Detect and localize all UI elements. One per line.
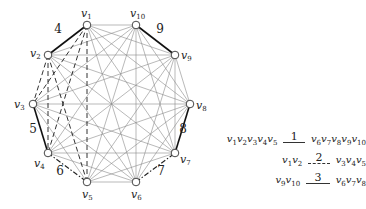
legend-row-3-connector: 3 — [306, 172, 329, 188]
edge-label-5: 5 — [29, 122, 37, 136]
edge-v1-v4 — [48, 25, 87, 153]
edge-v6-v9 — [136, 55, 175, 182]
vertex-label-v10: v10 — [130, 7, 145, 21]
legend-vertex: v5 — [267, 133, 277, 144]
vertex-label-v1: v1 — [81, 7, 92, 21]
edge-v2-v5 — [48, 55, 87, 182]
vertex-label-v6: v6 — [131, 188, 142, 202]
edge-v4-v5 — [48, 153, 87, 182]
legend-vertex: v6 — [336, 174, 346, 185]
legend-row-2-number: 2 — [308, 152, 329, 163]
vertex-v1 — [83, 21, 91, 29]
edge-label-9: 9 — [156, 22, 164, 36]
legend-vertex: v1 — [227, 133, 237, 144]
edge-v7-v10 — [136, 25, 175, 153]
legend-row-1: v1v2v3v4v5 1 v6v7v8v9v10 — [218, 131, 366, 147]
edge-label-8: 8 — [179, 122, 187, 136]
legend-vertex: v9 — [275, 174, 285, 185]
legend-row-2-connector: 2 — [308, 152, 329, 168]
vertex-v10 — [132, 21, 140, 29]
vertex-label-v2: v2 — [30, 47, 41, 61]
legend-row-3-left: v9v10 — [218, 174, 300, 188]
edge-v2-v6 — [48, 55, 136, 182]
vertex-v2 — [44, 51, 52, 59]
legend-vertex: v10 — [351, 133, 366, 144]
legend-vertex: v4 — [257, 133, 267, 144]
legend-vertex: v4 — [346, 154, 356, 165]
legend-vertex: v9 — [341, 133, 351, 144]
edge-v1-v8 — [87, 25, 190, 104]
edge-v5-v8 — [87, 104, 190, 182]
dashed-edges — [33, 25, 87, 182]
legend-row-3-number: 3 — [306, 172, 329, 183]
edge-v8-v10 — [136, 25, 190, 104]
edge-v6-v7 — [136, 153, 175, 182]
legend-row-1-number: 1 — [283, 131, 304, 142]
legend-row-2-left: v1v2 — [218, 154, 302, 168]
vertex-v9 — [171, 51, 179, 59]
vertex-v5 — [83, 178, 91, 186]
legend-vertex: v10 — [286, 174, 301, 185]
legend-vertex: v1 — [282, 154, 292, 165]
complete-graph-k10: v1v2v3v4v5v6v7v8v9v10 495867 — [0, 0, 230, 209]
edge-label-7: 7 — [157, 164, 165, 178]
vertex-label-v5: v5 — [82, 188, 93, 202]
legend-row-1-right: v6v7v8v9v10 — [311, 133, 366, 147]
legend-vertex: v8 — [331, 133, 341, 144]
legend-vertex: v6 — [311, 133, 321, 144]
vertex-v7 — [171, 149, 179, 157]
edge-v2-v3 — [33, 55, 48, 104]
edge-label-6: 6 — [56, 164, 64, 178]
legend-vertex: v2 — [292, 154, 302, 165]
vertex-label-v8: v8 — [196, 99, 207, 113]
edge-v3-v9 — [33, 55, 175, 104]
vertex-label-v7: v7 — [180, 153, 191, 167]
legend-row-3-right: v6v7v8 — [336, 174, 366, 188]
legend-vertex: v7 — [321, 133, 331, 144]
legend-vertex: v2 — [237, 133, 247, 144]
legend-row-1-connector: 1 — [283, 131, 304, 147]
vertex-label-v3: v3 — [14, 98, 25, 112]
vertex-v8 — [186, 100, 194, 108]
vertex-v4 — [44, 149, 52, 157]
vertex-v3 — [29, 100, 37, 108]
legend-row-2: v1v2 2 v3v4v5 — [218, 152, 366, 168]
edge-label-4: 4 — [54, 22, 62, 36]
vertex-label-v4: v4 — [34, 157, 45, 171]
edge-v4-v8 — [48, 104, 190, 153]
legend-vertex: v3 — [247, 133, 257, 144]
vertex-labels: v1v2v3v4v5v6v7v8v9v10 — [14, 7, 207, 202]
vertex-label-v9: v9 — [181, 49, 192, 63]
legend-row-1-left: v1v2v3v4v5 — [218, 133, 277, 147]
legend-vertex: v7 — [346, 174, 356, 185]
legend-row-3: v9v10 3 v6v7v8 — [218, 172, 366, 188]
legend-vertex: v5 — [356, 154, 366, 165]
vertex-v6 — [132, 178, 140, 186]
legend-row-2-right: v3v4v5 — [336, 154, 366, 168]
legend-vertex: v8 — [356, 174, 366, 185]
legend-vertex: v3 — [336, 154, 346, 165]
